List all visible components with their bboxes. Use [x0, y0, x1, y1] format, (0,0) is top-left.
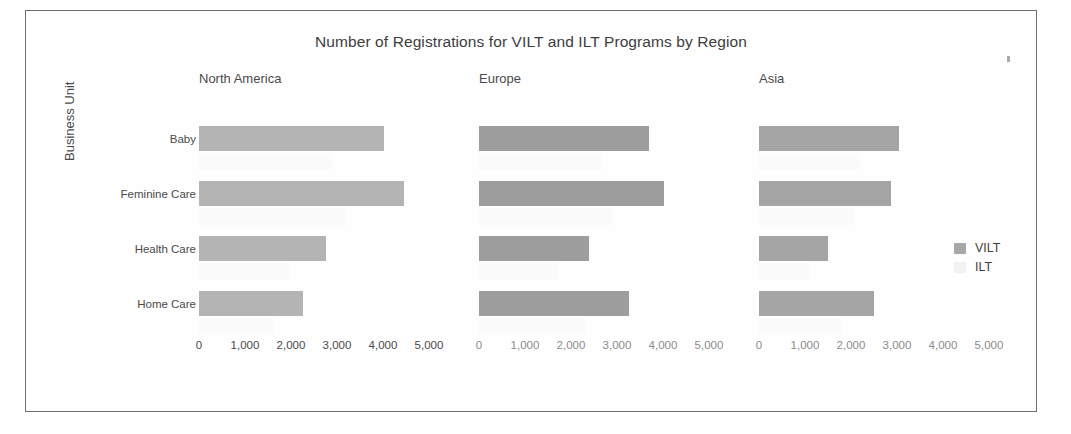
bar-vilt [479, 236, 589, 261]
x-axis-tick-label: 5,000 [695, 339, 724, 351]
bar-vilt [759, 126, 899, 151]
x-axis-tick-label: 1,000 [791, 339, 820, 351]
x-axis-tick-label: 5,000 [415, 339, 444, 351]
x-axis-tick-label: 4,000 [649, 339, 678, 351]
bar-group-home-care [759, 291, 1029, 346]
legend-label: ILT [975, 261, 992, 274]
chart-legend: VILTILT [954, 239, 1000, 277]
bar-group-feminine-care [759, 181, 1029, 236]
bar-ilt [479, 318, 587, 335]
bar-ilt [479, 153, 602, 170]
bar-vilt [199, 181, 404, 206]
bar-group-feminine-care [199, 181, 469, 236]
x-axis-tick-label: 0 [476, 339, 482, 351]
x-axis-tick-label: 3,000 [323, 339, 352, 351]
bar-group-feminine-care [479, 181, 749, 236]
x-axis: 01,0002,0003,0004,0005,000 [479, 339, 749, 357]
bar-group-home-care [199, 291, 469, 346]
bar-ilt [479, 208, 612, 225]
panel-title: North America [199, 71, 281, 86]
legend-item-vilt[interactable]: VILT [954, 239, 1000, 258]
bar-ilt [199, 153, 332, 170]
bar-group-home-care [479, 291, 749, 346]
bar-group-health-care [479, 236, 749, 291]
x-axis: 01,0002,0003,0004,0005,000 [759, 339, 1029, 357]
bar-vilt [479, 126, 649, 151]
x-axis-tick-label: 2,000 [277, 339, 306, 351]
bar-group-baby [199, 126, 469, 181]
panel-europe: Europe01,0002,0003,0004,0005,000 [479, 71, 749, 381]
bar-vilt [759, 236, 828, 261]
x-axis-tick-label: 3,000 [603, 339, 632, 351]
bar-vilt [199, 236, 326, 261]
bar-ilt [199, 263, 290, 280]
bar-vilt [199, 126, 384, 151]
bar-ilt [759, 153, 860, 170]
legend-swatch-icon [954, 262, 966, 273]
panel-bars [479, 109, 749, 329]
bar-group-baby [759, 126, 1029, 181]
x-axis-tick-label: 0 [756, 339, 762, 351]
bar-vilt [199, 291, 303, 316]
x-axis-tick-label: 2,000 [557, 339, 586, 351]
bar-group-baby [479, 126, 749, 181]
bar-vilt [479, 291, 629, 316]
panel-title: Asia [759, 71, 784, 86]
panel-asia: Asia01,0002,0003,0004,0005,000 [759, 71, 1029, 381]
x-axis-tick-label: 4,000 [929, 339, 958, 351]
chart-figure: Number of Registrations for VILT and ILT… [25, 10, 1037, 412]
plot-area: North America01,0002,0003,0004,0005,000E… [26, 11, 1036, 411]
x-axis-tick-label: 0 [196, 339, 202, 351]
panel-bars [199, 109, 469, 329]
bar-ilt [479, 263, 558, 280]
x-axis-tick-label: 5,000 [975, 339, 1004, 351]
bar-ilt [759, 263, 809, 280]
x-axis-tick-label: 1,000 [231, 339, 260, 351]
bar-vilt [479, 181, 664, 206]
panel-bars [759, 109, 1029, 329]
bar-ilt [759, 318, 842, 335]
legend-item-ilt[interactable]: ILT [954, 258, 1000, 277]
bar-ilt [759, 208, 854, 225]
bar-vilt [759, 291, 874, 316]
x-axis-tick-label: 2,000 [837, 339, 866, 351]
x-axis-tick-label: 3,000 [883, 339, 912, 351]
x-axis: 01,0002,0003,0004,0005,000 [199, 339, 469, 357]
bar-group-health-care [199, 236, 469, 291]
bar-ilt [199, 208, 346, 225]
panel-north-america: North America01,0002,0003,0004,0005,000 [199, 71, 469, 381]
bar-ilt [199, 318, 274, 335]
bar-vilt [759, 181, 891, 206]
x-axis-tick-label: 4,000 [369, 339, 398, 351]
legend-swatch-icon [954, 243, 966, 254]
legend-label: VILT [975, 242, 1000, 255]
panel-title: Europe [479, 71, 521, 86]
x-axis-tick-label: 1,000 [511, 339, 540, 351]
